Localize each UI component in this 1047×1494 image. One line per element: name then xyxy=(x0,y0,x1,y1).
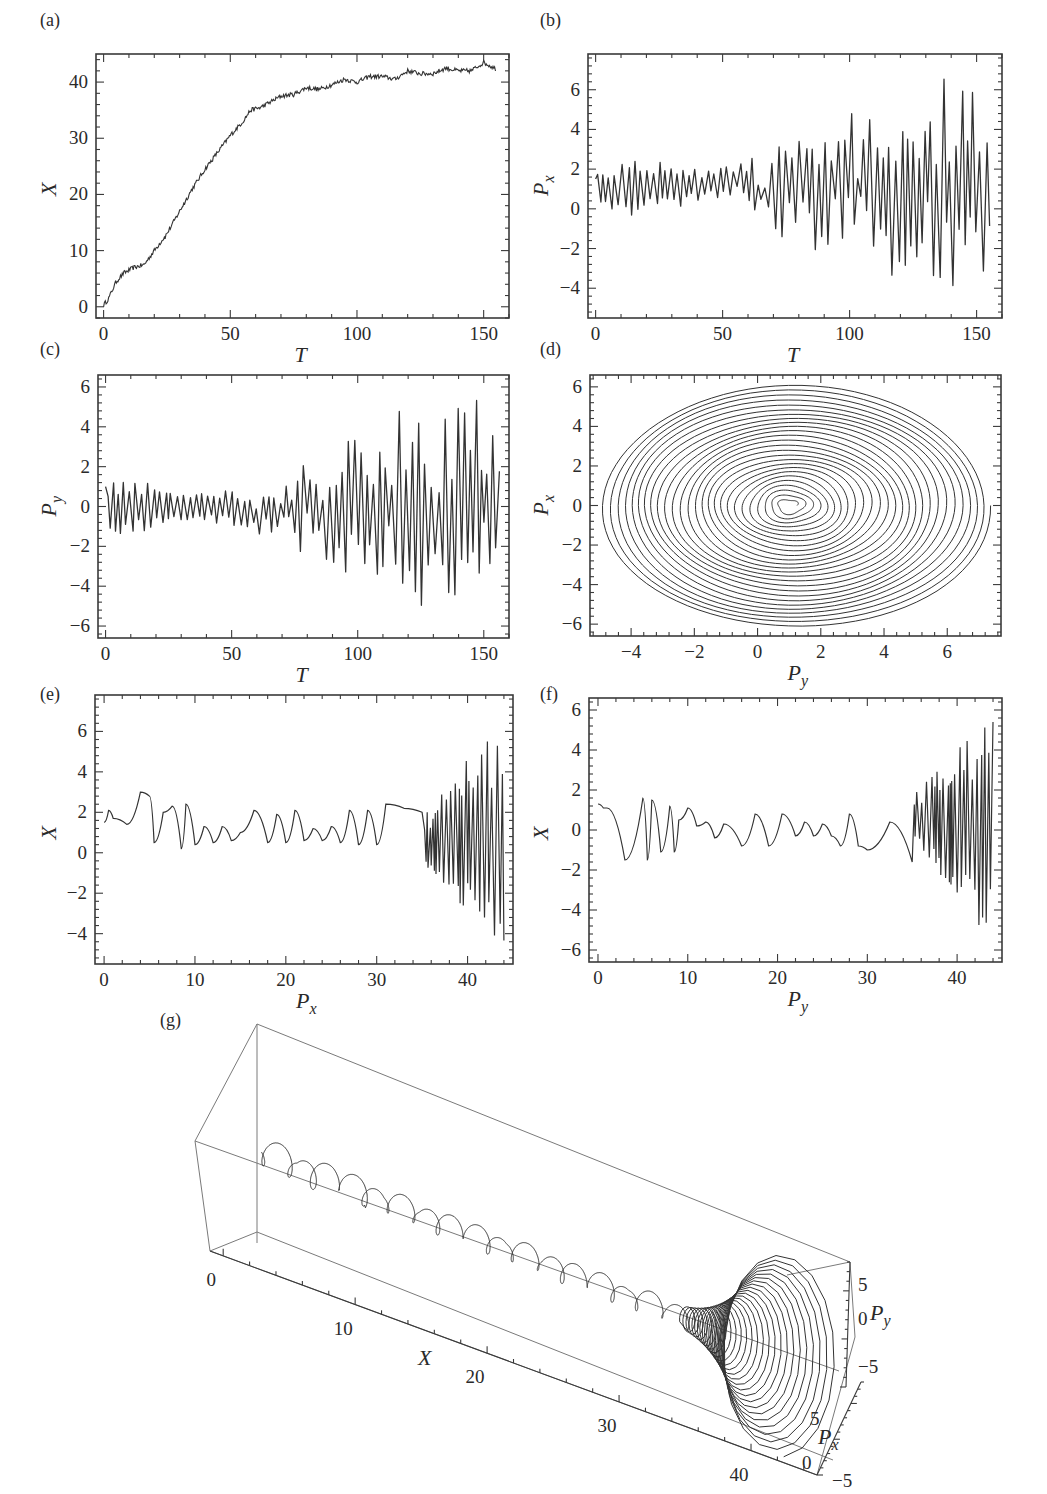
py-tick-label: 5 xyxy=(858,1274,868,1295)
y-tick-label: 6 xyxy=(572,699,582,720)
y-tick-label: 4 xyxy=(78,761,88,782)
svg-text:X: X xyxy=(36,825,61,841)
y-tick-label: −6 xyxy=(562,613,582,634)
y-tick-label: −2 xyxy=(560,238,580,259)
y-tick-label: −2 xyxy=(70,535,90,556)
panel-b: (b)050100150−4−20246TPx xyxy=(528,10,1002,367)
y-tick-label: −4 xyxy=(560,277,581,298)
x-tick-label: 100 xyxy=(343,323,372,344)
y-tick-label: 4 xyxy=(571,118,581,139)
svg-text:X: X xyxy=(528,825,553,841)
panel-c: (c)050100150−6−4−20246TPy xyxy=(36,339,509,687)
x-tick-label: 0 xyxy=(753,641,763,662)
y-axis-label: X xyxy=(528,825,553,841)
x-tick-label: 20 xyxy=(276,969,295,990)
y-tick-label: 6 xyxy=(571,79,581,100)
x-axis-label: T xyxy=(296,662,310,687)
panel-g: (g)010203040X−505Px50−5Py xyxy=(160,1010,891,1491)
data-line xyxy=(104,60,496,307)
plot-area xyxy=(106,400,500,605)
y-tick-label: 20 xyxy=(69,183,88,204)
trajectory-3d xyxy=(261,1143,834,1457)
svg-text:Px: Px xyxy=(528,175,557,197)
x-tick-label: 4 xyxy=(879,641,889,662)
px-tick-label: 0 xyxy=(802,1452,812,1473)
y-tick-label: 0 xyxy=(573,495,583,516)
svg-text:Py: Py xyxy=(36,495,66,517)
y-tick-label: −6 xyxy=(561,939,581,960)
px-tick-label: −5 xyxy=(832,1470,852,1491)
panel-label: (f) xyxy=(540,684,558,705)
x-tick-label: 10 xyxy=(334,1318,353,1339)
py-tick-label: 0 xyxy=(858,1308,868,1329)
y-tick-label: 30 xyxy=(69,127,88,148)
x-tick-label: 40 xyxy=(948,967,967,988)
y-tick-label: 0 xyxy=(81,496,91,517)
x-axis-label: T xyxy=(787,342,801,367)
x-tick-label: 50 xyxy=(221,323,240,344)
x-tick-label: 50 xyxy=(713,323,732,344)
y-tick-label: −2 xyxy=(562,534,582,555)
figure: (a)050100150010203040TX(b)050100150−4−20… xyxy=(0,0,1047,1494)
panel-label: (g) xyxy=(160,1010,181,1031)
panel-label: (c) xyxy=(40,339,60,360)
py-axis-3d xyxy=(840,1262,850,1387)
y-axis-label: X xyxy=(36,825,61,841)
y-tick-label: 6 xyxy=(573,376,583,397)
x-axis-label: Py xyxy=(787,986,809,1016)
ticks xyxy=(588,54,1002,318)
x-tick-label: 30 xyxy=(367,969,386,990)
plot-frame xyxy=(96,54,509,318)
y-tick-label: 4 xyxy=(81,416,91,437)
x-tick-label: 150 xyxy=(962,323,991,344)
y-axis-label: Px xyxy=(528,495,557,517)
y-axis-label: Py xyxy=(36,495,66,517)
x-tick-label: 6 xyxy=(943,641,953,662)
panel-d: (d)−4−20246−6−4−20246PyPx xyxy=(528,339,1001,690)
data-line xyxy=(603,385,991,626)
y-tick-label: −6 xyxy=(70,615,90,636)
px-axis-label: Px xyxy=(817,1424,839,1453)
x-tick-label: 10 xyxy=(185,969,204,990)
y-tick-label: 6 xyxy=(81,376,91,397)
x-axis-label: Px xyxy=(295,988,317,1017)
y-tick-label: −4 xyxy=(561,899,582,920)
py-tick-label: −5 xyxy=(858,1356,878,1377)
y-tick-label: 6 xyxy=(78,720,88,741)
x-tick-label: 30 xyxy=(858,967,877,988)
x-tick-label: 150 xyxy=(469,323,498,344)
py-axis-label: Py xyxy=(869,1300,891,1330)
data-line xyxy=(598,722,993,925)
data-line xyxy=(104,742,504,941)
x-tick-label: 20 xyxy=(466,1366,485,1387)
y-tick-label: 10 xyxy=(69,240,88,261)
x-axis-label: T xyxy=(295,342,309,367)
x-tick-label: 30 xyxy=(598,1415,617,1436)
y-tick-label: 2 xyxy=(573,455,583,476)
plot-frame xyxy=(588,54,1002,318)
panel-f: (f)010203040−6−4−20246PyX xyxy=(528,684,1002,1016)
y-tick-label: 0 xyxy=(78,842,88,863)
y-tick-label: −4 xyxy=(67,923,88,944)
x-tick-label: 2 xyxy=(816,641,826,662)
y-tick-label: 2 xyxy=(572,779,582,800)
y-tick-label: −2 xyxy=(561,859,581,880)
plot-area xyxy=(104,60,496,307)
x-tick-label: 20 xyxy=(768,967,787,988)
plot-area xyxy=(104,742,504,941)
x-tick-label: 0 xyxy=(591,323,601,344)
data-line xyxy=(106,400,500,605)
y-tick-label: 0 xyxy=(571,198,581,219)
plot-area xyxy=(596,79,990,285)
x-tick-label: 0 xyxy=(593,967,603,988)
plot-area xyxy=(598,722,993,925)
x-tick-label: −4 xyxy=(621,641,642,662)
panel-label: (e) xyxy=(40,684,60,705)
ticks xyxy=(96,54,509,318)
svg-text:X: X xyxy=(36,181,61,197)
x-tick-label: 150 xyxy=(470,643,499,664)
x-axis-label: Py xyxy=(787,660,809,690)
panel-a: (a)050100150010203040TX xyxy=(36,10,509,367)
x-tick-label: 100 xyxy=(343,643,372,664)
panels: (a)050100150010203040TX(b)050100150−4−20… xyxy=(36,10,1002,1491)
